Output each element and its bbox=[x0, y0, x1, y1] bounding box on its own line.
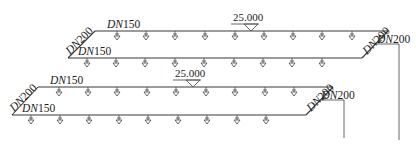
pipe-size-label: DN150 bbox=[49, 74, 83, 86]
riser-pipe bbox=[320, 100, 345, 138]
sprinkler-head-icon bbox=[172, 58, 178, 67]
sprinkler-head-icon bbox=[116, 115, 122, 124]
sprinkler-head-icon bbox=[175, 115, 181, 124]
sprinkler-head-icon bbox=[319, 31, 325, 40]
riser-pipe bbox=[375, 44, 399, 140]
pipe-diagram: DN150DN150DN200DN200DN20025.000DN150DN15… bbox=[0, 0, 416, 147]
elevation-value: 25.000 bbox=[175, 67, 206, 79]
sprinkler-head-icon bbox=[232, 87, 238, 96]
elevation-triangle-icon bbox=[186, 80, 200, 87]
elevation-triangle-icon bbox=[244, 24, 258, 31]
sprinkler-head-icon bbox=[85, 87, 91, 96]
diagram-svg: DN150DN150DN200DN200DN20025.000DN150DN15… bbox=[0, 0, 416, 147]
sprinkler-head-icon bbox=[113, 58, 119, 67]
sprinkler-head-icon bbox=[172, 31, 178, 40]
sprinkler-head-icon bbox=[289, 58, 295, 67]
pipe-system-upper: DN150DN150DN200DN200DN20025.000 bbox=[62, 11, 410, 140]
sprinkler-head-icon bbox=[28, 115, 34, 124]
riser-size-label: DN200 bbox=[321, 89, 355, 101]
sprinkler-head-icon bbox=[260, 58, 266, 67]
sprinkler-head-icon bbox=[201, 58, 207, 67]
sprinkler-head-icon bbox=[263, 115, 269, 124]
sprinkler-head-icon bbox=[203, 87, 209, 96]
pipe-size-label: DN150 bbox=[106, 18, 140, 30]
sprinkler-head-icon bbox=[349, 31, 355, 40]
sprinkler-head-icon bbox=[86, 115, 92, 124]
riser-size-label: DN200 bbox=[376, 33, 410, 45]
sprinkler-head-icon bbox=[57, 115, 63, 124]
sprinkler-head-icon bbox=[114, 87, 120, 96]
sprinkler-head-icon bbox=[142, 58, 148, 67]
sprinkler-head-icon bbox=[114, 31, 120, 40]
pipe-system-lower: DN150DN150DN200DN200DN20025.000 bbox=[6, 67, 355, 138]
sprinkler-head-icon bbox=[291, 87, 297, 96]
sprinkler-head-icon bbox=[231, 58, 237, 67]
sprinkler-head-icon bbox=[319, 58, 325, 67]
elevation-marker: 25.000 bbox=[231, 11, 264, 31]
sprinkler-head-icon bbox=[56, 87, 62, 96]
sprinkler-head-icon bbox=[173, 87, 179, 96]
sprinkler-head-icon bbox=[290, 31, 296, 40]
elevation-marker: 25.000 bbox=[173, 67, 206, 87]
pipe-size-label: DN150 bbox=[77, 45, 111, 57]
sprinkler-head-icon bbox=[144, 87, 150, 96]
sprinkler-head-icon bbox=[234, 115, 240, 124]
sprinkler-head-icon bbox=[204, 115, 210, 124]
sprinkler-head-icon bbox=[145, 115, 151, 124]
sprinkler-head-icon bbox=[232, 31, 238, 40]
sprinkler-head-icon bbox=[84, 58, 90, 67]
sprinkler-head-icon bbox=[262, 87, 268, 96]
sprinkler-head-icon bbox=[202, 31, 208, 40]
sprinkler-head-icon bbox=[261, 31, 267, 40]
elevation-value: 25.000 bbox=[233, 11, 264, 23]
sprinkler-head-icon bbox=[143, 31, 149, 40]
pipe-size-label: DN150 bbox=[21, 102, 55, 114]
